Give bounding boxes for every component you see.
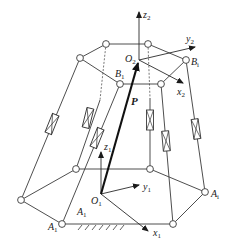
label-x2: x2	[176, 86, 185, 99]
label-A1-inner: A1	[76, 206, 87, 219]
base-frame	[101, 152, 148, 231]
label-O2: O2	[125, 53, 136, 66]
x2-axis-arrow-icon	[139, 60, 183, 83]
x1-axis-arrow-icon	[101, 194, 148, 231]
label-y2: y2	[185, 33, 194, 46]
actuator-legs	[21, 44, 205, 224]
label-x1: x1	[152, 227, 161, 240]
label-Ai: Ai	[210, 188, 219, 201]
label-y1: y1	[142, 181, 151, 194]
label-z2: z2	[142, 9, 151, 22]
label-B1: B1	[115, 68, 125, 81]
base-joints	[18, 166, 209, 228]
label-A1-corner: A1	[47, 221, 58, 234]
ground-hatch	[78, 225, 124, 230]
label-O1: O1	[91, 195, 102, 208]
label-z1: z1	[103, 141, 112, 154]
y1-axis-arrow-icon	[101, 185, 139, 194]
label-Bi: Bi	[191, 56, 199, 69]
stewart-platform-diagram: z2 y2 x2 O2 B1 Bi P z1 y1 x1 O1 A1 A1 Ai	[0, 0, 232, 252]
label-P: P	[131, 95, 138, 107]
